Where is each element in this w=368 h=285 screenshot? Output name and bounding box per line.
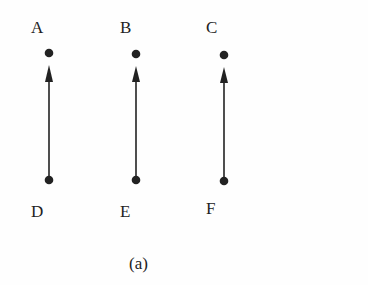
node-f-dot (220, 177, 229, 186)
graph-drawing (0, 0, 368, 285)
node-f-label: F (206, 200, 215, 217)
edge-f-c (220, 67, 228, 177)
node-a-dot (45, 49, 54, 58)
node-c-label: C (206, 19, 217, 36)
diagram-canvas: A B C D E F (a) (0, 0, 368, 285)
node-d-dot (45, 176, 54, 185)
node-b-dot (132, 50, 141, 59)
node-a-label: A (31, 19, 43, 36)
arrowhead-icon (132, 66, 140, 82)
arrowhead-icon (45, 65, 53, 82)
node-b-label: B (120, 19, 131, 36)
node-d-label: D (31, 203, 43, 220)
node-e-label: E (120, 203, 130, 220)
node-c-dot (220, 51, 229, 60)
figure-caption: (a) (129, 255, 148, 272)
edge-e-b (132, 66, 140, 176)
arrowhead-icon (220, 67, 228, 83)
edge-d-a (45, 65, 53, 176)
node-e-dot (132, 176, 141, 185)
